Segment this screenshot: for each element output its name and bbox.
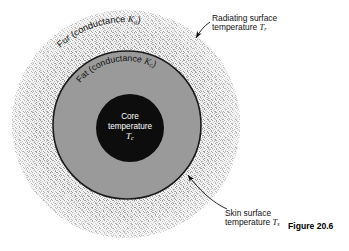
core-label-line1: Core: [121, 112, 139, 121]
figure-diagram: Fur (conductance Ka) Fat (conductance Kc…: [0, 0, 349, 251]
core-label-line2: temperature: [108, 122, 152, 131]
concentric-circles-diagram: Fur (conductance Ka) Fat (conductance Kc…: [0, 0, 349, 251]
radiating-surface-label: Radiating surface temperature Tr: [212, 14, 277, 34]
skin-surface-line2: temperature Ts: [225, 217, 280, 227]
core-temperature-label: Core temperature Tc: [87, 112, 173, 142]
skin-surface-label: Skin surface temperature Ts: [225, 209, 280, 229]
radiating-surface-line2: temperature Tr: [212, 22, 267, 32]
core-temperature-symbol: Tc: [87, 131, 173, 142]
figure-caption: Figure 20.6: [288, 222, 333, 232]
radiating-surface-leader-arrow: [196, 22, 210, 38]
